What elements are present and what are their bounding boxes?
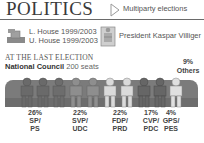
figure-icon	[154, 78, 166, 107]
subtitle: Multiparty elections	[123, 4, 187, 14]
council-label: National Council	[5, 62, 64, 71]
header: POLITICS Multiparty elections	[0, 0, 204, 20]
president-figure-icon	[100, 25, 116, 47]
others-name: Others	[173, 66, 203, 75]
council-info: National Council 200 seats	[5, 62, 99, 71]
page-title: POLITICS	[6, 0, 93, 19]
lower-house: L. House 1999/2003	[29, 27, 98, 36]
upper-house: U. House 1999/2003	[29, 36, 98, 45]
president-label: President Kaspar Villiger	[119, 31, 201, 40]
figure-icon	[121, 78, 133, 107]
section-heading: AT THE LAST ELECTION	[5, 53, 93, 62]
party-label-fdp: 22% FDP/ PRD	[106, 109, 134, 133]
others-label: 9% Others	[173, 57, 203, 75]
figure-icon	[170, 78, 182, 107]
council-seats: 200 seats	[66, 62, 99, 71]
legislature-info: L. House 1999/2003 U. House 1999/2003	[29, 27, 98, 45]
others-percent: 9%	[173, 57, 203, 66]
party-label-svp: 22% SVP/ UDC	[66, 109, 94, 133]
figure-icon	[53, 78, 65, 107]
party-label-sp: 26% SP/ PS	[21, 109, 49, 133]
figure-icon	[70, 78, 82, 107]
figure-icon	[21, 78, 33, 107]
header-divider	[0, 19, 204, 20]
party-label-gps: 4% GPS/ PES	[157, 109, 185, 133]
triangle-right-icon	[110, 3, 120, 17]
figure-icon	[37, 78, 49, 107]
figure-icon	[104, 78, 116, 107]
ballot-box-icon	[6, 28, 26, 44]
figure-icon	[87, 78, 99, 107]
seat-figures	[0, 76, 204, 110]
figure-icon	[138, 78, 150, 107]
